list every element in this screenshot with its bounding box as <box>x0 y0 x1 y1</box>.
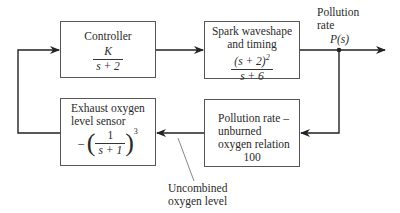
spark-tf: (s + 2)2 s + 6 <box>231 51 272 83</box>
controller-tf: K s + 2 <box>93 45 123 73</box>
output-label: Pollution rate <box>317 6 359 32</box>
sensor-tf: – ( 1 s + 1 )3 <box>78 129 138 157</box>
controller-title: Controller <box>61 30 155 43</box>
pollution-relation-block: Pollution rate – unburned oxygen relatio… <box>204 99 300 167</box>
controller-block: Controller K s + 2 <box>60 21 156 78</box>
relation-line2: unburned <box>205 125 299 138</box>
output-signal-label: P(s) <box>330 33 349 46</box>
spark-title-line1: Spark waveshape <box>205 25 299 38</box>
feedback-right-arrow <box>301 50 339 133</box>
oxygen-sensor-block: Exhaust oxygen level sensor – ( 1 s + 1 … <box>60 98 156 166</box>
uncombined-oxygen-label: Uncombined oxygen level <box>168 182 227 208</box>
sensor-line1: Exhaust oxygen <box>61 102 155 115</box>
relation-line1: Pollution rate – <box>205 112 299 125</box>
feedback-left-arrow <box>18 50 60 133</box>
spark-timing-block: Spark waveshape and timing (s + 2)2 s + … <box>204 21 300 79</box>
spark-title-line2: and timing <box>205 38 299 51</box>
sensor-line2: level sensor <box>61 115 155 128</box>
relation-line3: oxygen relation <box>205 138 299 151</box>
relation-gain: 100 <box>205 151 299 164</box>
label-leader-line <box>178 138 194 181</box>
